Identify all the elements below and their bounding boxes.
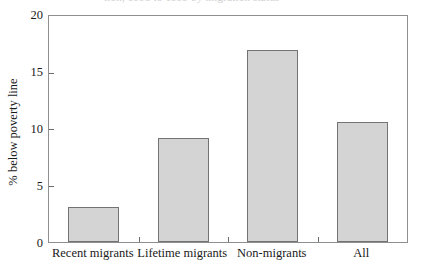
bar-non-migrants: [247, 50, 298, 242]
x-axis-tick-labels: Recent migrants Lifetime migrants Non-mi…: [48, 246, 408, 266]
x-tick-label-all: All: [353, 246, 369, 261]
plot-area: [48, 15, 408, 243]
y-tick-label-15: 15: [31, 66, 44, 79]
y-tick-label-5: 5: [37, 180, 43, 193]
x-tick-mark-2: [228, 237, 229, 242]
x-tick-mark-1: [139, 237, 140, 242]
y-axis-title: % below poverty line: [5, 62, 21, 202]
x-tick-label-non-migrants: Non-migrants: [237, 246, 306, 261]
bar-chart-figure: tion, 1993 to 1999 by migration status 2…: [0, 0, 421, 268]
y-tick-mark-5: [49, 186, 54, 187]
x-tick-label-lifetime-migrants: Lifetime migrants: [137, 246, 227, 261]
y-tick-label-10: 10: [31, 123, 44, 136]
bar-all: [337, 122, 388, 242]
y-tick-label-0: 0: [37, 237, 43, 250]
bar-lifetime-migrants: [158, 138, 209, 242]
y-tick-mark-10: [49, 129, 54, 130]
y-tick-mark-15: [49, 73, 54, 74]
x-tick-mark-3: [318, 237, 319, 242]
bar-recent-migrants: [68, 207, 119, 242]
y-axis-title-text: % below poverty line: [7, 78, 20, 185]
y-tick-label-20: 20: [31, 9, 44, 22]
x-tick-label-recent-migrants: Recent migrants: [52, 246, 134, 261]
clipped-title-sliver: tion, 1993 to 1999 by migration status: [0, 0, 421, 5]
clipped-title-text: tion, 1993 to 1999 by migration status: [104, 0, 279, 3]
